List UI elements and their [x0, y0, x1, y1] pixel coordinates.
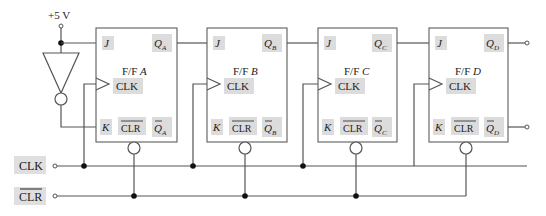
clk-input-text: CLK	[19, 159, 43, 173]
clr-input-terminal[interactable]	[53, 194, 57, 198]
flipflop-d: J Q D F/F D CLK K CLR Q D	[429, 28, 508, 154]
flipflop-a-title: F/F A	[122, 65, 147, 77]
svg-text:D: D	[493, 129, 499, 137]
flipflop-d-qbar: Q	[486, 122, 494, 134]
flipflop-c-title: F/F C	[344, 65, 370, 77]
qd-output-terminal[interactable]	[525, 41, 529, 45]
flipflop-c-clk: CLK	[338, 80, 360, 92]
clk-to-c-wire	[303, 84, 318, 166]
flipflop-c: J Q C F/F C CLK K CLR Q C	[318, 28, 397, 154]
clk-to-a-wire	[84, 84, 96, 166]
flipflop-c-clr-bubble	[350, 142, 362, 154]
svg-text:C: C	[382, 129, 387, 137]
flipflop-a: J Q A F/F A CLK K CLR Q A	[96, 28, 177, 154]
qd-bar-output-terminal[interactable]	[525, 125, 529, 129]
inverter-bubble	[55, 93, 67, 105]
flipflop-c-q: Q	[374, 37, 382, 49]
svg-text:B: B	[272, 44, 277, 52]
flipflop-d-title: F/F D	[455, 65, 481, 77]
clk-to-b-wire	[193, 84, 207, 166]
svg-text:A: A	[161, 129, 167, 137]
svg-text:B: B	[272, 129, 277, 137]
flipflop-c-k: K	[323, 121, 332, 133]
flipflop-a-k: K	[101, 121, 110, 133]
flipflop-b: J Q B F/F B CLK K CLR Q B	[207, 28, 287, 154]
inverter-to-k-a-wire	[61, 105, 96, 127]
clr-input-text: CLR	[19, 190, 42, 204]
flipflop-a-clr: CLR	[121, 123, 141, 134]
flipflop-b-k: K	[212, 121, 221, 133]
flipflop-d-q: Q	[486, 37, 494, 49]
flipflop-b-clk: CLK	[227, 80, 249, 92]
flipflop-b-clr-bubble	[239, 142, 251, 154]
flipflop-a-clk: CLK	[116, 80, 138, 92]
jk-flipflop-circuit-diagram: +5 V CLK CLK CLR J Q A F/F A CLK K CLR Q…	[0, 0, 546, 216]
flipflop-a-clr-bubble	[128, 142, 140, 154]
flipflop-b-qbar: Q	[264, 122, 272, 134]
svg-text:D: D	[493, 44, 499, 52]
flipflop-a-qbar: Q	[154, 122, 162, 134]
clk-to-d-wire	[414, 84, 429, 166]
flipflop-b-title: F/F B	[233, 65, 258, 77]
flipflop-d-clr-bubble	[460, 142, 472, 154]
inverter-triangle	[43, 53, 79, 93]
clk-input-terminal[interactable]	[53, 164, 57, 168]
svg-text:A: A	[161, 44, 167, 52]
flipflop-b-q: Q	[264, 37, 272, 49]
svg-text:C: C	[382, 44, 387, 52]
flipflop-a-q: Q	[154, 37, 162, 49]
supply-terminal	[59, 24, 63, 28]
flipflop-c-clr: CLR	[343, 123, 363, 134]
flipflop-d-clr: CLR	[454, 123, 474, 134]
flipflop-c-qbar: Q	[374, 122, 382, 134]
flipflop-d-clk: CLK	[449, 80, 471, 92]
supply-label: +5 V	[48, 9, 70, 21]
flipflop-b-clr: CLR	[232, 123, 252, 134]
flipflop-d-k: K	[434, 121, 443, 133]
